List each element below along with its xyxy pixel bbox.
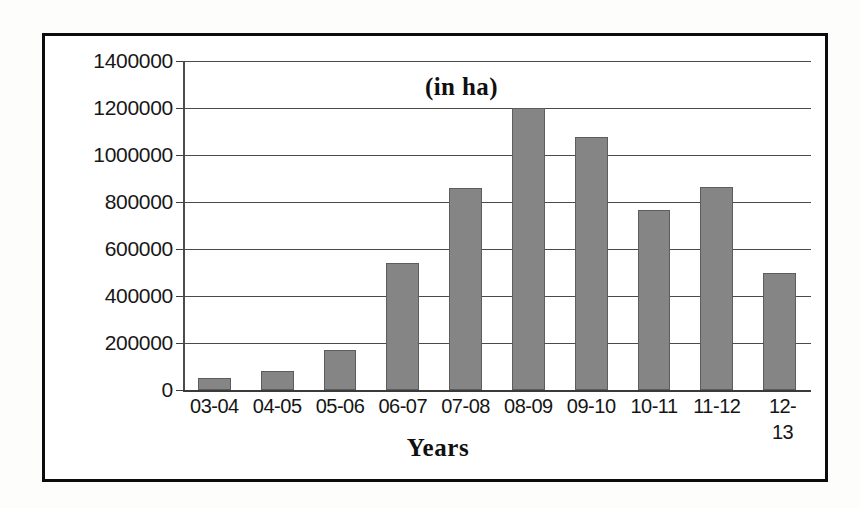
y-axis-tick [176, 390, 183, 391]
bar [638, 210, 671, 390]
x-axis-tick-label: 03-04 [183, 394, 246, 420]
bar [386, 263, 419, 390]
x-axis-tick-label: 08-09 [497, 394, 560, 420]
x-axis-title: Years [45, 434, 831, 462]
x-axis-tick-label: 05-06 [309, 394, 372, 420]
x-axis-baseline [183, 390, 811, 392]
x-axis-tick-label: 07-08 [434, 394, 497, 420]
y-axis-tick-label: 600000 [105, 238, 173, 259]
y-axis-tick [176, 249, 183, 250]
bar [512, 108, 545, 390]
x-axis-tick-label: 11-12 [685, 394, 748, 420]
bar [700, 187, 733, 390]
x-axis-tick-label: 10-11 [623, 394, 686, 420]
bar [449, 188, 482, 390]
plot-area [183, 61, 811, 390]
bar [198, 378, 231, 390]
y-axis-tick-label: 800000 [105, 191, 173, 212]
y-axis-tick-label: 1200000 [93, 97, 173, 118]
bar [575, 137, 608, 390]
y-axis-tick-label: 1000000 [93, 144, 173, 165]
y-axis-tick [176, 155, 183, 156]
x-axis-tick-label: 04-05 [246, 394, 309, 420]
chart-frame: 1400000120000010000008000006000004000002… [42, 33, 828, 482]
unit-annotation: (in ha) [425, 73, 498, 101]
y-axis-tick-label: 400000 [105, 285, 173, 306]
y-axis-tick [176, 108, 183, 109]
x-axis-tick-label: 09-10 [560, 394, 623, 420]
bar-series [183, 61, 811, 390]
scanned-page: 1400000120000010000008000006000004000002… [0, 0, 860, 508]
y-axis-tick [176, 296, 183, 297]
bar [261, 371, 294, 390]
bar [763, 273, 796, 391]
y-axis-tick [176, 343, 183, 344]
y-axis-tick [176, 61, 183, 62]
y-axis-tick-label: 0 [162, 379, 173, 400]
y-axis-labels: 1400000120000010000008000006000004000002… [45, 61, 173, 390]
bar [324, 350, 357, 390]
x-axis-tick-label: 06-07 [371, 394, 434, 420]
y-axis-tick-label: 1400000 [93, 50, 173, 71]
y-axis-tick-label: 200000 [105, 332, 173, 353]
y-axis-tick [176, 202, 183, 203]
